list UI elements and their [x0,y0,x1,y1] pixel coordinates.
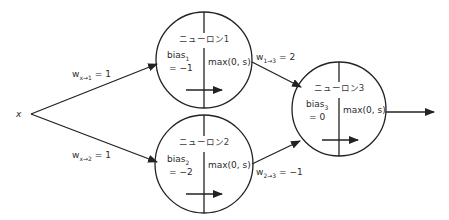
edge-label-n2-to-n3: w2→3= −1 [256,167,303,179]
neuron-1-bias-value: = −1 [169,63,193,73]
svg-text:w2→3= −1: w2→3= −1 [256,167,303,179]
svg-text:wx→1= 1: wx→1= 1 [72,69,111,81]
edge-n1-to-n3 [252,62,301,87]
edge-label-x-to-n2: wx→2= 1 [72,150,111,162]
svg-text:wx→2= 1: wx→2= 1 [72,150,111,162]
neuron-2-bias-label: bias2 [167,154,189,166]
edge-label-x-to-n1: wx→1= 1 [72,69,111,81]
neuron-2-bias-value: = −2 [169,167,193,177]
neuron-3-bias-value: = 0 [309,112,325,122]
neuron-2-activation: max(0, s) [208,160,251,170]
neuron-3: ニューロン3 bias3 = 0 max(0, s) [292,62,386,156]
neuron-1: ニューロン1 bias1 = −1 max(0, s) [156,12,252,108]
neuron-3-bias-label: bias3 [306,99,328,111]
neuron-1-bias-label: bias1 [167,50,189,62]
neuron-1-activation: max(0, s) [208,57,251,67]
edge-n2-to-n3 [252,141,300,164]
neural-network-diagram: x wx→1= 1 wx→2= 1 ニューロン1 bias1 = −1 max(… [0,0,449,220]
neuron-3-activation: max(0, s) [343,105,386,115]
input-x-label: x [15,109,22,119]
svg-text:w1→3= 2: w1→3= 2 [256,52,295,64]
neuron-2: ニューロン2 bias2 = −2 max(0, s) [155,115,253,213]
neuron-3-name: ニューロン3 [314,83,364,93]
neuron-1-name: ニューロン1 [179,34,229,44]
edge-label-n1-to-n3: w1→3= 2 [256,52,295,64]
neuron-2-name: ニューロン2 [179,137,229,147]
